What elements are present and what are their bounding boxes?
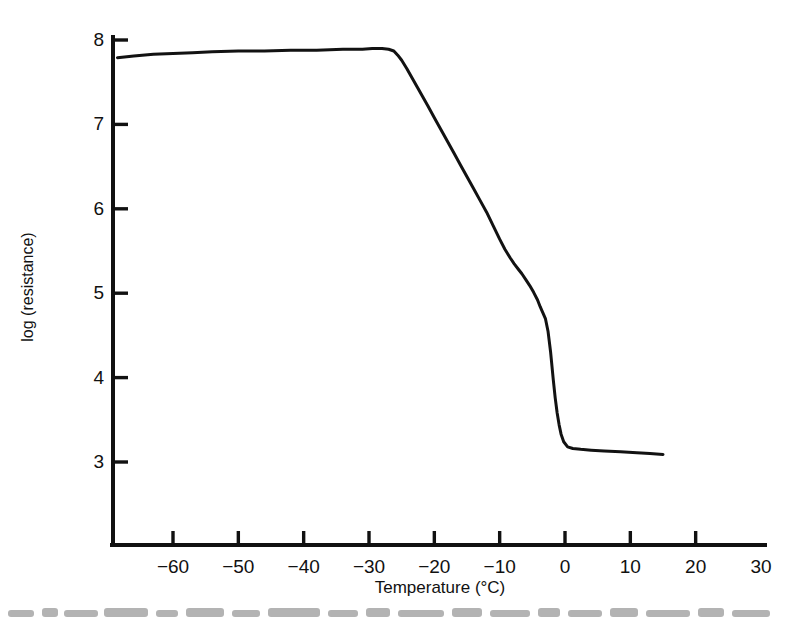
- y-tick-label: 6: [78, 199, 104, 218]
- page-scan-artifact: [0, 598, 805, 628]
- x-axis-label: Temperature (°C): [330, 578, 550, 598]
- y-tick-label: 5: [78, 283, 104, 302]
- x-tick-label: 10: [603, 557, 657, 576]
- y-tick-label: 7: [78, 114, 104, 133]
- x-tick-label: −60: [146, 557, 200, 576]
- y-tick-label: 4: [78, 368, 104, 387]
- x-tick-label: −30: [342, 557, 396, 576]
- x-tick-label: 0: [538, 557, 592, 576]
- plot-area: [0, 0, 805, 628]
- x-tick-label: −20: [407, 557, 461, 576]
- chart-figure: 345678 −60−50−40−30−20−100102030 Tempera…: [0, 0, 805, 628]
- x-tick-label: 20: [669, 557, 723, 576]
- x-axis-ticks: [173, 531, 696, 545]
- y-tick-label: 3: [78, 452, 104, 471]
- y-axis-ticks: [113, 40, 128, 462]
- data-series-line: [117, 48, 663, 454]
- x-tick-label: 30: [734, 557, 788, 576]
- y-tick-label: 8: [78, 30, 104, 49]
- y-axis-label: log (resistance): [19, 207, 37, 367]
- x-tick-label: −40: [277, 557, 331, 576]
- x-tick-label: −10: [473, 557, 527, 576]
- x-tick-label: −50: [211, 557, 265, 576]
